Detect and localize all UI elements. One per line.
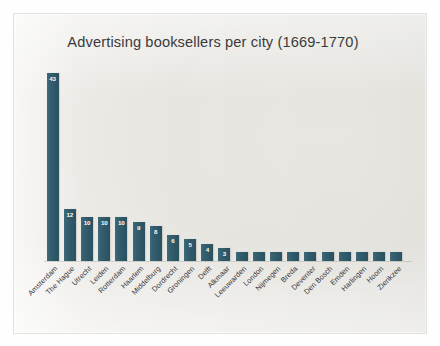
x-label-slot: Utrecht	[78, 262, 95, 332]
bar-value-label: 3	[218, 250, 230, 257]
bar[interactable]	[236, 252, 248, 261]
bar-slot	[250, 64, 267, 261]
x-label-slot: Groningen	[182, 262, 199, 332]
x-label-slot: Delft	[199, 262, 216, 332]
x-label-slot: Harlingen	[354, 262, 371, 332]
bar-slot: 8	[147, 64, 164, 261]
bar-slot: 6	[164, 64, 181, 261]
x-label-slot: Den Bosch	[319, 262, 336, 332]
x-label-slot: Haarlem	[130, 262, 147, 332]
bar[interactable]: 10	[81, 217, 93, 261]
x-label-slot: Breda	[285, 262, 302, 332]
x-label-slot: Emden	[336, 262, 353, 332]
bar-value-label: 5	[184, 241, 196, 248]
bar-slot: 3	[216, 64, 233, 261]
bar[interactable]: 3	[218, 248, 230, 261]
bar-value-label: 10	[115, 219, 127, 226]
bar-slot	[267, 64, 284, 261]
bar[interactable]	[322, 252, 334, 261]
bar-slot	[285, 64, 302, 261]
bar[interactable]: 10	[115, 217, 127, 261]
bar-value-label: 6	[167, 237, 179, 244]
bar-value-label: 43	[47, 75, 59, 82]
bar[interactable]: 5	[184, 239, 196, 261]
bar-slot: 12	[61, 64, 78, 261]
bar-value-label: 9	[133, 224, 145, 231]
bar[interactable]	[287, 252, 299, 261]
x-label-slot: Dordrecht	[164, 262, 181, 332]
bar-slot	[319, 64, 336, 261]
bar[interactable]	[356, 252, 368, 261]
x-label-slot: Rotterdam	[113, 262, 130, 332]
bar[interactable]: 9	[133, 222, 145, 261]
page-root: Advertising booksellers per city (1669-1…	[0, 0, 440, 346]
x-label-slot: Hoorn	[371, 262, 388, 332]
bar-slot: 5	[182, 64, 199, 261]
bar-slot	[353, 64, 370, 261]
plot-area: 4312101010986543	[44, 64, 412, 261]
bar-value-label: 4	[201, 246, 213, 253]
bar-slot	[302, 64, 319, 261]
x-label-slot: Zierikzee	[388, 262, 405, 332]
bar[interactable]	[373, 252, 385, 261]
bar[interactable]: 43	[47, 73, 59, 261]
bar-slot: 10	[78, 64, 95, 261]
x-label-slot: Leiden	[96, 262, 113, 332]
x-label-slot: Nijmegen	[268, 262, 285, 332]
bar[interactable]	[253, 252, 265, 261]
x-label-slot: Amsterdam	[44, 262, 61, 332]
x-label-slot: Deventer	[302, 262, 319, 332]
x-label-slot: Middelburg	[147, 262, 164, 332]
bar-slot: 43	[44, 64, 61, 261]
bar-slot	[388, 64, 405, 261]
bar-slot: 9	[130, 64, 147, 261]
chart-card: Advertising booksellers per city (1669-1…	[13, 13, 427, 334]
bar-series: 4312101010986543	[44, 64, 412, 261]
bar[interactable]: 4	[201, 244, 213, 262]
x-label-slot: London	[250, 262, 267, 332]
bar[interactable]: 8	[150, 226, 162, 261]
bar[interactable]	[304, 252, 316, 261]
bar-slot: 10	[113, 64, 130, 261]
page-title: Advertising booksellers per city (1669-1…	[14, 34, 412, 50]
x-label-slot: Leeuwarden	[233, 262, 250, 332]
bar-slot	[371, 64, 388, 261]
bar-slot	[233, 64, 250, 261]
x-label-slot: The Hague	[61, 262, 78, 332]
bar-value-label: 10	[98, 219, 110, 226]
x-axis-labels: AmsterdamThe HagueUtrechtLeidenRotterdam…	[44, 262, 412, 332]
bar[interactable]: 10	[98, 217, 110, 261]
bar-value-label: 12	[64, 211, 76, 218]
bar[interactable]	[270, 252, 282, 261]
bar-slot: 10	[96, 64, 113, 261]
bar[interactable]: 12	[64, 209, 76, 262]
bar-value-label: 8	[150, 228, 162, 235]
bar[interactable]	[339, 252, 351, 261]
bar[interactable]: 6	[167, 235, 179, 261]
bar-value-label: 10	[81, 219, 93, 226]
bar-slot	[336, 64, 353, 261]
bar[interactable]	[390, 252, 402, 261]
bar-slot: 4	[199, 64, 216, 261]
